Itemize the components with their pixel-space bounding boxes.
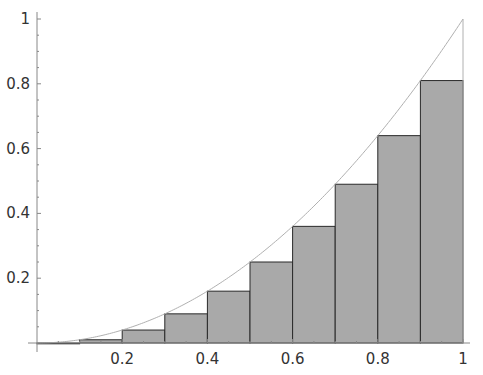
bar-8 — [378, 136, 421, 343]
x-tick-label: 0.2 — [110, 350, 134, 368]
riemann-sum-plot: 0.20.40.60.81 0.20.40.60.81 — [0, 0, 483, 375]
bar-7 — [335, 184, 378, 343]
y-tick-label: 0.2 — [6, 269, 30, 287]
rectangles — [37, 81, 463, 344]
y-axis-ticks: 0.20.40.60.81 — [6, 10, 41, 327]
bar-5 — [250, 262, 293, 343]
y-tick-label: 0.6 — [6, 140, 30, 158]
y-tick-label: 0.8 — [6, 75, 30, 93]
x-tick-label: 0.8 — [366, 350, 390, 368]
bar-9 — [420, 81, 463, 343]
y-tick-label: 0.4 — [6, 204, 30, 222]
bar-6 — [293, 226, 336, 343]
bar-4 — [207, 291, 250, 343]
x-tick-label: 0.6 — [281, 350, 305, 368]
bar-3 — [165, 314, 208, 343]
x-tick-label: 1 — [458, 350, 468, 368]
y-tick-label: 1 — [20, 10, 30, 28]
x-tick-label: 0.4 — [195, 350, 219, 368]
